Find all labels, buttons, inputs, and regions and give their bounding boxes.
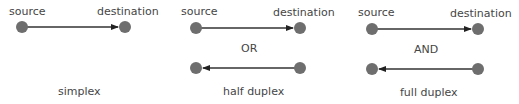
connector-and: AND (414, 43, 438, 56)
caption-simplex: simplex (58, 85, 101, 98)
source-node (16, 21, 28, 33)
destination-node (119, 21, 131, 33)
panel-simplex: source destination simplex (9, 5, 159, 98)
destination-label: destination (97, 5, 159, 18)
destination-node (294, 22, 306, 34)
destination-label: destination (273, 6, 335, 19)
destination-node-return (472, 63, 484, 75)
source-node-return (190, 62, 202, 74)
panel-half-duplex: source destination OR half duplex (181, 5, 335, 98)
source-label: source (358, 6, 395, 19)
source-label: source (9, 5, 46, 18)
connector-or: OR (241, 42, 258, 55)
source-node (366, 23, 378, 35)
source-node-return (366, 63, 378, 75)
source-node (190, 22, 202, 34)
destination-label: destination (450, 7, 512, 20)
caption-half-duplex: half duplex (223, 85, 285, 98)
caption-full-duplex: full duplex (400, 86, 458, 99)
panel-full-duplex: source destination AND full duplex (358, 6, 512, 99)
destination-node-return (294, 62, 306, 74)
transmission-modes-diagram: source destination simplex source destin… (0, 0, 519, 104)
source-label: source (181, 5, 218, 18)
destination-node (472, 23, 484, 35)
